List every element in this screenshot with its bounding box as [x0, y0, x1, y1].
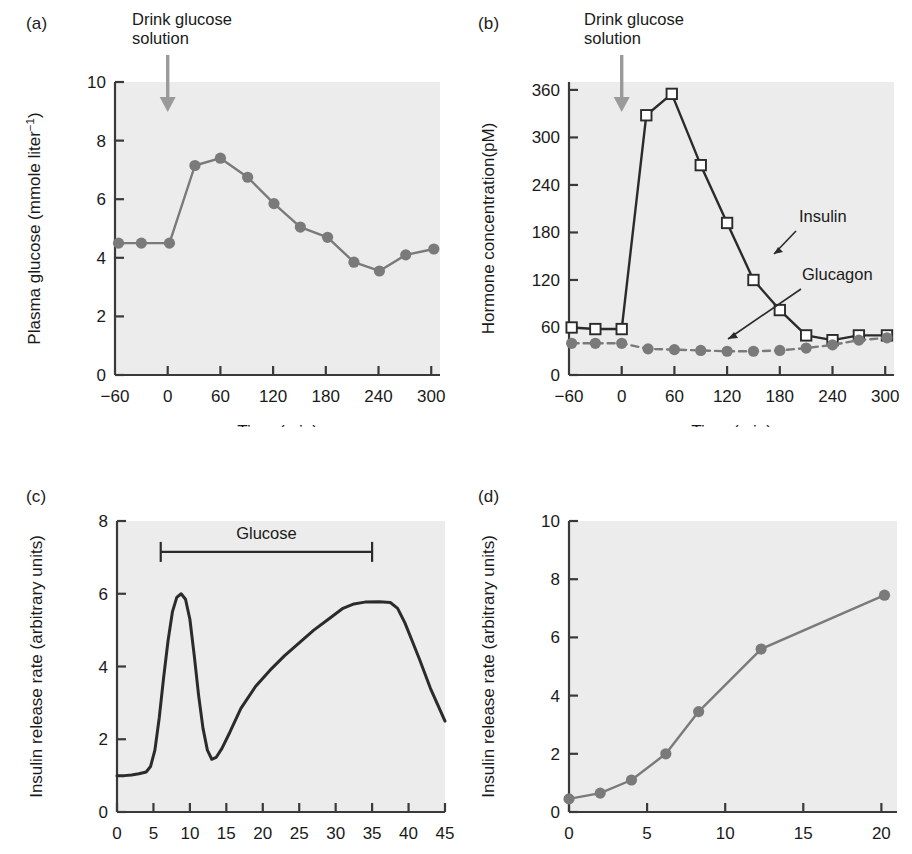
- panel-a-y-tick-label: 2: [97, 307, 106, 326]
- panel-d-data-point: [756, 643, 767, 654]
- panel-a-data-point: [400, 249, 411, 260]
- panel-b-y-tick-label: 120: [532, 271, 560, 290]
- panel-c-x-tick-label: 30: [326, 824, 345, 843]
- panel-b-data-point: [748, 346, 759, 357]
- panel-a-y-tick-label: 8: [97, 132, 106, 151]
- panel-d-x-tick-label: 10: [716, 824, 735, 843]
- panel-a-x-tick-label: 180: [312, 387, 340, 406]
- panel-d-y-axis-title: Insulin release rate (arbitrary units): [479, 535, 498, 798]
- y-axis-title-superscript: −1: [24, 118, 36, 131]
- figure-panel-grid: (a) Drink glucose solution 0246810060120…: [0, 0, 912, 854]
- panel-c-x-tick-label: 45: [436, 824, 455, 843]
- panel-b-x-tick-label: 60: [665, 387, 684, 406]
- panel-b-insulin-label: Insulin: [799, 207, 847, 225]
- glucose-bar-label: Glucose: [236, 524, 297, 542]
- panel-b-data-point: [774, 345, 785, 356]
- panel-a-plot-area: [115, 82, 440, 375]
- panel-d-x-tick-label: 5: [642, 824, 651, 843]
- panel-b-x-axis-start-label: −60: [555, 387, 584, 406]
- panel-b-y-tick-label: 180: [532, 223, 560, 242]
- panel-c-y-tick-label: 2: [99, 730, 108, 749]
- panel-b-x-tick-label: 300: [871, 387, 899, 406]
- panel-b-glucagon-label: Glucagon: [802, 265, 873, 283]
- panel-d-y-tick-label: 4: [551, 687, 560, 706]
- panel-b-data-point: [801, 330, 811, 340]
- panel-a-x-tick-label: 120: [259, 387, 287, 406]
- panel-a-x-tick-label: 240: [364, 387, 392, 406]
- panel-c-y-tick-label: 4: [99, 658, 108, 677]
- panel-d-data-point: [693, 706, 704, 717]
- panel-c: (c) 02468051015202530354045GlucoseTime (…: [0, 427, 456, 854]
- panel-a-data-point: [322, 232, 333, 243]
- panel-c-x-tick-label: 15: [217, 824, 236, 843]
- panel-b-data-point: [642, 343, 653, 354]
- panel-d-y-tick-label: 0: [551, 803, 560, 822]
- panel-c-y-tick-label: 8: [99, 512, 108, 531]
- panel-b-y-axis-title: Hormone concentration(pM): [479, 123, 498, 335]
- panel-c-x-tick-label: 20: [253, 824, 272, 843]
- panel-c-x-tick-label: 35: [363, 824, 382, 843]
- panel-d-y-tick-label: 8: [551, 570, 560, 589]
- panel-c-x-tick-label: 0: [112, 824, 121, 843]
- panel-d-y-tick-label: 6: [551, 628, 560, 647]
- panel-a-data-point: [242, 172, 253, 183]
- y-axis-title-tail: ): [25, 112, 44, 118]
- panel-d-plot-area: [569, 521, 897, 812]
- panel-d-chart: 024681005101520Glucose concn. (mM)Insuli…: [456, 427, 912, 854]
- panel-b-data-point: [616, 338, 627, 349]
- panel-a-data-point: [113, 238, 124, 249]
- panel-b-data-point: [695, 345, 706, 356]
- panel-d-x-tick-label: 15: [794, 824, 813, 843]
- panel-b-y-tick-label: 0: [551, 366, 560, 385]
- panel-a-x-tick-label: 300: [417, 387, 445, 406]
- panel-b-x-tick-label: 240: [818, 387, 846, 406]
- panel-c-y-tick-label: 6: [99, 585, 108, 604]
- panel-b-data-point: [566, 338, 577, 349]
- panel-b-x-tick-label: 0: [617, 387, 626, 406]
- panel-b-y-tick-label: 360: [532, 81, 560, 100]
- panel-a-y-axis-title: Plasma glucose (mmole liter−1): [24, 112, 44, 344]
- panel-b-y-tick-label: 300: [532, 128, 560, 147]
- panel-d-x-tick-label: 20: [872, 824, 891, 843]
- panel-b-data-point: [667, 89, 677, 99]
- panel-b-x-tick-label: 180: [766, 387, 794, 406]
- panel-a-data-point: [374, 265, 385, 276]
- panel-a-y-tick-label: 0: [97, 366, 106, 385]
- panel-c-y-axis-title: Insulin release rate (arbitrary units): [27, 535, 46, 798]
- panel-b-data-point: [590, 324, 600, 334]
- panel-a-y-tick-label: 6: [97, 190, 106, 209]
- panel-b-data-point: [853, 335, 864, 346]
- panel-b-data-point: [881, 332, 892, 343]
- panel-b-data-point: [669, 344, 680, 355]
- panel-d-data-point: [879, 590, 890, 601]
- panel-b-data-point: [748, 275, 758, 285]
- panel-a-data-point: [164, 238, 175, 249]
- panel-a-data-point: [348, 257, 359, 268]
- panel-a-y-tick-label: 10: [87, 73, 106, 92]
- panel-a-data-point: [136, 238, 147, 249]
- panel-b-data-point: [641, 110, 651, 120]
- panel-d-data-point: [595, 787, 606, 798]
- panel-b-data-point: [590, 338, 601, 349]
- panel-a-data-point: [428, 243, 439, 254]
- panel-d-data-point: [660, 748, 671, 759]
- panel-a-data-point: [268, 198, 279, 209]
- panel-d-x-tick-label: 0: [564, 824, 573, 843]
- panel-d-data-point: [626, 774, 637, 785]
- panel-a-x-axis-start-label: −60: [101, 387, 130, 406]
- panel-d-data-point: [563, 793, 574, 804]
- panel-c-x-tick-label: 10: [180, 824, 199, 843]
- panel-a-x-tick-label: 60: [211, 387, 230, 406]
- panel-a: (a) Drink glucose solution 0246810060120…: [0, 0, 456, 427]
- panel-c-chart: 02468051015202530354045GlucoseTime (min)…: [0, 427, 456, 854]
- panel-c-x-tick-label: 5: [149, 824, 158, 843]
- panel-b-data-point: [722, 346, 733, 357]
- panel-b-y-tick-label: 60: [541, 318, 560, 337]
- panel-a-data-point: [215, 153, 226, 164]
- panel-a-chart: 0246810060120180240300−60Time (min)Plasm…: [0, 0, 456, 427]
- panel-b-x-tick-label: 120: [713, 387, 741, 406]
- panel-c-x-tick-label: 25: [290, 824, 309, 843]
- panel-b-y-tick-label: 240: [532, 176, 560, 195]
- panel-b-chart: 060120180240300360060120180240300−60Time…: [456, 0, 912, 427]
- panel-a-y-tick-label: 4: [97, 249, 106, 268]
